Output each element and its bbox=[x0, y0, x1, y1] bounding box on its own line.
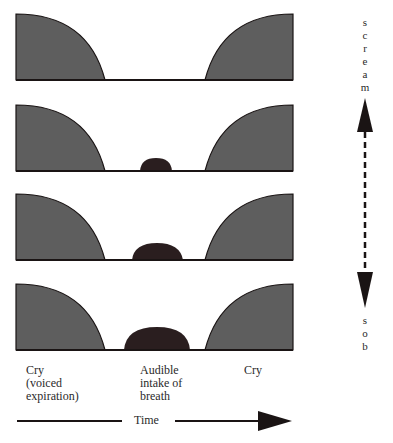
cry-left-shape bbox=[16, 194, 105, 260]
time-label: Time bbox=[134, 414, 159, 427]
scream-sob-arrow bbox=[357, 98, 373, 308]
letter: a bbox=[357, 68, 373, 81]
arrow-up-icon bbox=[357, 98, 373, 132]
letter: s bbox=[357, 16, 373, 29]
breath-intake-shape bbox=[132, 243, 183, 260]
letter: o bbox=[357, 327, 373, 340]
letter: m bbox=[357, 81, 373, 94]
breath-intake-shape bbox=[140, 158, 172, 171]
letter: e bbox=[357, 55, 373, 68]
letter: s bbox=[357, 314, 373, 327]
cry-right-shape bbox=[205, 194, 293, 260]
sob-label: s o b bbox=[357, 314, 373, 353]
cry-right-shape bbox=[205, 105, 293, 171]
cry-left-shape bbox=[16, 284, 105, 350]
scream-label: s c r e a m bbox=[357, 16, 373, 94]
cry-left-shape bbox=[16, 105, 105, 171]
breath-intake-shape bbox=[124, 327, 190, 350]
panel-1 bbox=[16, 14, 293, 80]
panel-4 bbox=[16, 284, 293, 350]
letter: c bbox=[357, 29, 373, 42]
cry-right-label: Cry bbox=[244, 364, 262, 377]
cry-left-shape bbox=[16, 14, 105, 80]
letter: b bbox=[357, 340, 373, 353]
breath-label: Audible intake of breath bbox=[140, 364, 182, 403]
cry-right-shape bbox=[205, 14, 293, 80]
letter: r bbox=[357, 42, 373, 55]
arrow-right-icon bbox=[258, 411, 292, 431]
panel-2 bbox=[16, 105, 293, 171]
cry-right-shape bbox=[205, 284, 293, 350]
panel-3 bbox=[16, 194, 293, 260]
arrow-down-icon bbox=[357, 272, 373, 308]
cry-left-label: Cry (voiced expiration) bbox=[26, 364, 79, 403]
